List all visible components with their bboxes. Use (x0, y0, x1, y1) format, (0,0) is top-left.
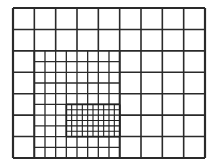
fine-refined-grid (66, 104, 119, 136)
grid-canvas (0, 0, 214, 167)
mesh-refinement-diagram (0, 0, 214, 167)
